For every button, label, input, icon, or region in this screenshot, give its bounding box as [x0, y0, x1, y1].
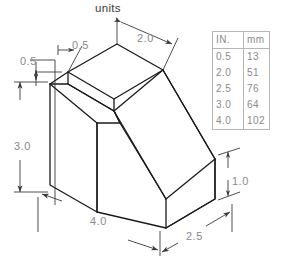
dim-2.5-b: [162, 243, 178, 252]
ext-1.0-top: [218, 148, 240, 155]
ext-1.0-bottom: [218, 192, 240, 200]
dimension-label-upper-left-depth: 0.5: [20, 56, 37, 67]
face-left-landing: [50, 84, 120, 123]
face-left-side: [50, 84, 97, 212]
dimension-label-bottom-depth: 2.5: [186, 231, 203, 242]
conversion-cell-inches: 4.0: [213, 113, 244, 130]
technical-drawing-figure: units 0.5 2.0 0.5 3.0 4.0 2.5 1.0 IN. mm…: [0, 0, 285, 266]
conversion-cell-mm: 13: [244, 49, 270, 66]
table-row: 4.0 102: [213, 113, 270, 130]
conversion-cell-inches: 2.0: [213, 65, 244, 81]
dim-4.0-a: [42, 194, 62, 201]
conversion-cell-mm: 76: [244, 81, 270, 97]
edge-ramp-right: [163, 70, 215, 159]
conversion-cell-mm: 64: [244, 97, 270, 113]
dim-4.0-b: [128, 240, 158, 250]
conversion-cell-inches: 2.5: [213, 81, 244, 97]
edge-step-to-landing: [50, 72, 68, 84]
face-step-top: [68, 44, 163, 99]
dimension-label-left-height: 3.0: [14, 141, 31, 152]
dimension-label-bottom-width: 4.0: [90, 216, 107, 227]
table-row: 0.5 13: [213, 49, 270, 66]
conversion-header-mm: mm: [244, 32, 270, 49]
figure-title: units: [95, 3, 121, 15]
dimension-lines: [14, 18, 240, 256]
table-row: 2.5 76: [213, 81, 270, 97]
table-row: 2.0 51: [213, 65, 270, 81]
conversion-table-header-row: IN. mm: [213, 32, 270, 49]
conversion-header-inches: IN.: [213, 32, 244, 49]
inch-to-mm-conversion-table: IN. mm 0.5 13 2.0 51 2.5 76 3.0 64 4.0 1…: [212, 31, 270, 130]
cropped-caption-sliver: [6, 262, 278, 266]
object-outline: [50, 44, 215, 228]
conversion-cell-inches: 0.5: [213, 49, 244, 66]
dimension-label-right-height: 1.0: [232, 176, 249, 187]
conversion-table-body: IN. mm 0.5 13 2.0 51 2.5 76 3.0 64 4.0 1…: [213, 32, 270, 130]
table-row: 3.0 64: [213, 97, 270, 113]
dimension-label-top-left-width: 0.5: [72, 40, 89, 51]
conversion-cell-inches: 3.0: [213, 97, 244, 113]
conversion-cell-mm: 51: [244, 65, 270, 81]
dimension-label-top-right-width: 2.0: [137, 33, 154, 44]
face-front-bottom: [97, 159, 215, 228]
dim-2.5-a: [206, 212, 230, 226]
conversion-cell-mm: 102: [244, 113, 270, 130]
ext-top-right: [163, 38, 178, 70]
